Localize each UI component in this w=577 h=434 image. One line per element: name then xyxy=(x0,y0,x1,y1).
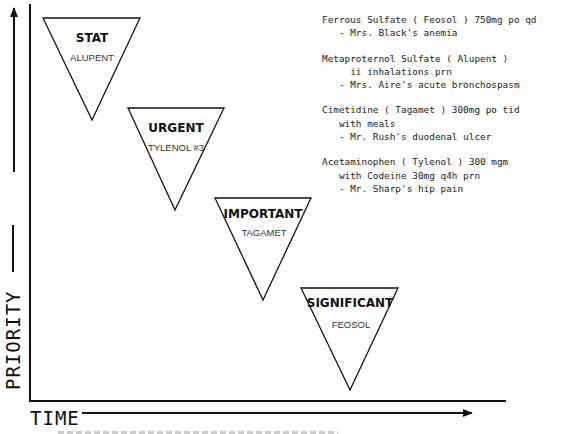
note-feosol: Ferrous Sulfate ( Feosol ) 750mg po qd -… xyxy=(322,13,536,40)
note-tylenol: Acetaminophen ( Tylenol ) 300 mgm with C… xyxy=(322,155,536,195)
note-line: Acetaminophen ( Tylenol ) 300 mgm xyxy=(322,155,536,168)
note-line: Cimetidine ( Tagamet ) 300mg po tid xyxy=(322,103,536,116)
triangle-level-label: SIGNIFICANT xyxy=(307,296,394,310)
triangle-drug-label: TYLENOL #3 xyxy=(148,142,204,153)
triangle-level-label: URGENT xyxy=(148,121,204,135)
note-line: - Mr. Sharp's hip pain xyxy=(322,182,536,195)
triangle-stat: STAT ALUPENT xyxy=(43,18,140,120)
note-alupent: Metaproternol Sulfate ( Alupent ) ii inh… xyxy=(322,52,536,92)
note-line: - Mrs. Black's anemia xyxy=(322,26,536,39)
note-tagamet: Cimetidine ( Tagamet ) 300mg po tid with… xyxy=(322,103,536,143)
triangle-urgent: URGENT TYLENOL #3 xyxy=(128,108,224,210)
note-line: Ferrous Sulfate ( Feosol ) 750mg po qd xyxy=(322,13,536,26)
triangle-significant: SIGNIFICANT FEOSOL xyxy=(301,288,398,390)
note-line: - Mr. Rush's duodenal ulcer xyxy=(322,130,536,143)
triangle-drug-label: ALUPENT xyxy=(70,52,114,63)
triangle-level-label: IMPORTANT xyxy=(224,207,304,221)
note-line: ii inhalations prn xyxy=(322,65,536,78)
note-line: with meals xyxy=(322,117,536,130)
y-axis-label: PRIORITY xyxy=(2,290,24,390)
figure-caption-cutoff xyxy=(58,427,338,434)
note-line: Metaproternol Sulfate ( Alupent ) xyxy=(322,52,536,65)
triangle-drug-label: TAGAMET xyxy=(241,227,286,238)
triangle-important: IMPORTANT TAGAMET xyxy=(215,198,311,300)
triangle-level-label: STAT xyxy=(76,31,109,45)
triangle-drug-label: FEOSOL xyxy=(332,319,371,330)
x-axis-label: TIME xyxy=(30,407,80,429)
medication-notes: Ferrous Sulfate ( Feosol ) 750mg po qd -… xyxy=(322,13,536,207)
note-line: with Codeine 30mg q4h prn xyxy=(322,169,536,182)
note-line: - Mrs. Aire's acute bronchospasm xyxy=(322,78,536,91)
